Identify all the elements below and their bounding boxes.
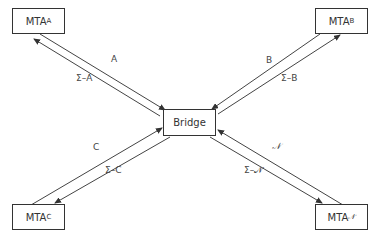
node-mta-a: MTAA — [12, 8, 65, 34]
node-label: MTA — [329, 16, 350, 27]
node-label: MTA — [328, 212, 349, 223]
edge-bridge-to-n — [210, 137, 322, 203]
node-label: MTA — [26, 16, 47, 27]
edge-label-n: 𝒩 — [272, 141, 281, 152]
node-mta-c: MTAC — [12, 204, 65, 230]
edge-label-b: B — [266, 55, 272, 65]
node-mta-b: MTAB — [315, 8, 368, 34]
edge-bridge-to-b — [218, 35, 340, 114]
node-subscript: 𝒩 — [348, 213, 355, 221]
edge-label-sigma-c: Σ–C — [105, 165, 121, 175]
node-bridge: Bridge — [163, 109, 216, 136]
edge-b-to-bridge — [212, 34, 320, 109]
node-label: Bridge — [173, 117, 206, 128]
node-subscript: C — [46, 213, 51, 221]
edge-a-to-bridge — [40, 34, 165, 110]
edge-label-sigma-b: Σ–B — [281, 73, 297, 83]
node-mta-n: MTA𝒩 — [315, 204, 368, 230]
edge-label-sigma-n: Σ–𝒩 — [244, 165, 263, 176]
node-label: MTA — [26, 212, 47, 223]
edge-label-a: A — [111, 54, 117, 64]
node-subscript: A — [47, 17, 52, 25]
node-subscript: B — [350, 17, 355, 25]
edge-label-c: C — [93, 142, 99, 152]
edge-c-to-bridge — [31, 128, 162, 205]
edge-bridge-to-a — [34, 39, 160, 116]
edge-label-sigma-a: Σ–A — [76, 73, 92, 83]
